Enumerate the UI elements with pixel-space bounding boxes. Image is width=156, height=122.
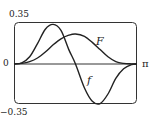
y-tick-top: 0.35 [9, 10, 29, 19]
y-tick-bottom: −0.35 [0, 108, 28, 117]
y-tick-zero: 0 [3, 59, 9, 68]
curve-F [14, 34, 137, 64]
curve-label-f: f [87, 75, 91, 86]
curve-label-F: F [96, 36, 104, 47]
x-tick-pi: π [142, 59, 149, 69]
